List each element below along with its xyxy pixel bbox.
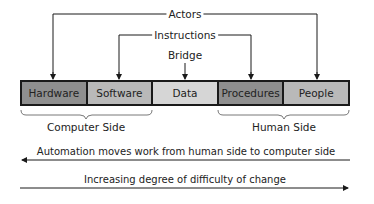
automation-arrow-label: Automation moves work from human side to…	[37, 146, 335, 157]
computer-side-label: Computer Side	[47, 121, 125, 133]
component-hardware: Hardware	[22, 82, 86, 104]
bridge-label: Bridge	[166, 49, 204, 61]
component-software: Software	[86, 82, 152, 104]
actors-label: Actors	[166, 8, 203, 20]
instructions-label: Instructions	[152, 29, 218, 41]
component-people: People	[282, 82, 348, 104]
component-row: Hardware Software Data Procedures People	[20, 80, 350, 106]
component-procedures: Procedures	[217, 82, 283, 104]
component-data: Data	[151, 82, 217, 104]
difficulty-arrow-label: Increasing degree of difficulty of chang…	[84, 174, 286, 185]
human-side-label: Human Side	[252, 121, 316, 133]
